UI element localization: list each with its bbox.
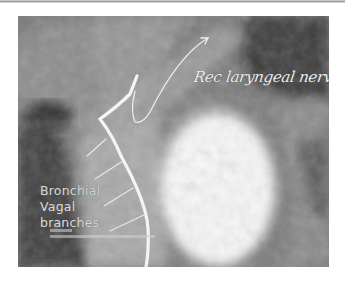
bronchial-vagal-branches-label: Bronchial Vagal branches (40, 183, 100, 231)
label-line-2: Vagal (40, 199, 100, 215)
surgical-photograph: Bronchial Vagal branches Rec laryngeal n… (18, 16, 329, 267)
top-rule-divider (0, 0, 345, 3)
credit-text-illegible (50, 229, 155, 241)
label-line-1: Bronchial (40, 183, 100, 199)
credit-line (50, 235, 155, 238)
credit-line (50, 229, 72, 232)
recurrent-laryngeal-nerve-label: Rec laryngeal nerve (193, 68, 329, 86)
